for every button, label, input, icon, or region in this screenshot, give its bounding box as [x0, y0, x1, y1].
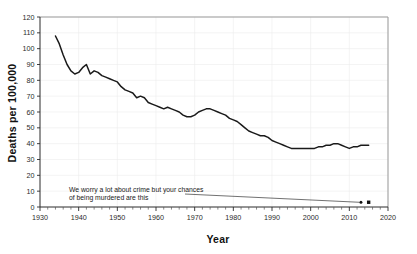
y-tick-label: 0	[31, 203, 35, 212]
y-axis-title: Deaths per 100,000	[6, 64, 18, 163]
y-tick-label: 110	[23, 28, 34, 37]
y-tick-label: 50	[27, 123, 35, 132]
chart-container: 0102030405060708090100110120 19301940195…	[0, 0, 417, 254]
x-tick-label: 2000	[303, 213, 319, 222]
x-tick-label: 1980	[225, 213, 241, 222]
y-tick-label: 10	[27, 187, 35, 196]
y-tick-label: 20	[27, 171, 35, 180]
x-tick-label: 1950	[109, 213, 125, 222]
x-tick-label: 1990	[264, 213, 280, 222]
annotation-line-2: of being murdered are this	[69, 194, 149, 202]
x-tick-label: 1940	[71, 213, 87, 222]
y-tick-label: 30	[27, 155, 35, 164]
x-tick-label: 1960	[148, 213, 164, 222]
y-tick-label: 90	[27, 60, 35, 69]
x-axis-title: Year	[207, 233, 230, 245]
x-tick-label: 1930	[32, 213, 48, 222]
y-tick-label: 100	[23, 44, 35, 53]
x-tick-label: 2010	[341, 213, 357, 222]
annotation-point-marker	[359, 201, 362, 204]
line-chart: 0102030405060708090100110120 19301940195…	[0, 0, 417, 254]
y-tick-label: 120	[23, 13, 35, 22]
y-tick-label: 80	[27, 76, 35, 85]
y-tick-label: 40	[27, 139, 35, 148]
annotation-point-marker	[367, 201, 370, 204]
x-tick-label: 2020	[380, 213, 396, 222]
x-tick-label: 1970	[187, 213, 203, 222]
y-tick-label: 70	[27, 92, 35, 101]
annotation-line-1: We worry a lot about crime but your chan…	[69, 186, 204, 194]
y-tick-label: 60	[27, 108, 35, 117]
